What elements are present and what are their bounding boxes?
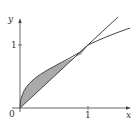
curve-y-equals-sqrt-x — [20, 28, 130, 108]
curve-y-equals-x — [20, 17, 118, 108]
plot-canvas — [0, 0, 140, 123]
area-between-curves-figure: y 1 0 1 x — [0, 0, 140, 123]
x-axis-label: x — [126, 111, 131, 120]
y-axis-arrow-icon — [18, 18, 21, 23]
x-tick-label: 1 — [85, 111, 91, 120]
y-axis-label: y — [8, 15, 13, 24]
origin-label: 0 — [9, 110, 15, 119]
y-tick-label: 1 — [11, 41, 17, 50]
